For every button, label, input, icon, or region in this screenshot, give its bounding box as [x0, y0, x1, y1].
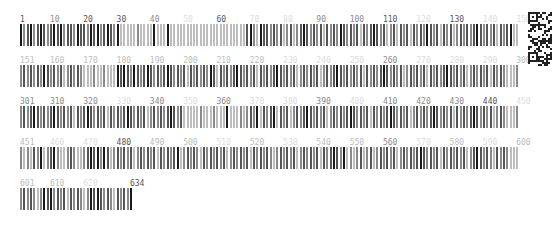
position-label: 130: [450, 15, 464, 24]
residue-bar: [63, 188, 65, 210]
residue-bar: [436, 147, 438, 169]
position-label: 120: [416, 15, 430, 24]
residue-bar: [440, 24, 442, 46]
residue-bar: [466, 106, 468, 128]
residue-bar: [333, 65, 335, 87]
residue-bar: [250, 24, 252, 46]
position-label: 70: [250, 15, 260, 24]
residue-bar: [473, 106, 475, 128]
residue-bar: [273, 147, 275, 169]
residue-bar: [446, 106, 448, 128]
residue-bar: [157, 106, 159, 128]
residue-bar: [430, 24, 432, 46]
residue-bar: [50, 65, 52, 87]
residue-bar: [123, 106, 125, 128]
residue-bar: [506, 65, 508, 87]
residue-bar: [60, 24, 62, 46]
residue-bar: [373, 24, 375, 46]
residue-bar: [416, 106, 418, 128]
residue-bar: [403, 65, 405, 87]
residue-bar: [236, 147, 238, 169]
residue-bar: [256, 65, 258, 87]
residue-bar: [107, 65, 109, 87]
residue-bar: [210, 24, 212, 46]
residue-bar: [90, 147, 92, 169]
residue-bar: [333, 24, 335, 46]
residue-bar: [27, 106, 29, 128]
residue-bar: [157, 147, 159, 169]
residue-bar: [310, 147, 312, 169]
residue-bar: [280, 106, 282, 128]
residue-bar: [243, 65, 245, 87]
residue-bar: [510, 65, 512, 87]
residue-bar: [493, 24, 495, 46]
residue-bar: [276, 24, 278, 46]
residue-bar: [286, 106, 288, 128]
residue-bar: [466, 65, 468, 87]
residue-bar: [450, 65, 452, 87]
residue-bar: [100, 24, 102, 46]
residue-bar: [370, 147, 372, 169]
residue-bar: [416, 65, 418, 87]
residue-bar: [433, 147, 435, 169]
residue-bar: [463, 24, 465, 46]
residue-bar: [33, 147, 35, 169]
position-label: 620: [83, 179, 97, 188]
residue-bar: [276, 106, 278, 128]
residue-bar: [480, 24, 482, 46]
residue-bar: [127, 147, 129, 169]
residue-bar: [336, 65, 338, 87]
residue-bar: [506, 106, 508, 128]
residue-bar: [403, 24, 405, 46]
position-label: 200: [183, 56, 197, 65]
position-label: 490: [150, 138, 164, 147]
position-label: 230: [283, 56, 297, 65]
residue-bar: [426, 106, 428, 128]
residue-bar: [87, 24, 89, 46]
position-label: 80: [283, 15, 293, 24]
residue-bar: [216, 147, 218, 169]
residue-bar: [506, 24, 508, 46]
residue-bar: [206, 65, 208, 87]
residue-bar: [386, 147, 388, 169]
residue-bar: [330, 147, 332, 169]
position-label: 450: [516, 97, 530, 106]
residue-bar: [236, 24, 238, 46]
residue-bar: [113, 188, 115, 210]
residue-bar: [93, 188, 95, 210]
residue-bar: [170, 147, 172, 169]
residue-bar: [363, 147, 365, 169]
residue-bar: [97, 24, 99, 46]
residue-bar: [183, 106, 185, 128]
residue-bar: [223, 24, 225, 46]
residue-bar: [120, 147, 122, 169]
position-label: 250: [350, 56, 364, 65]
residue-bar: [373, 65, 375, 87]
residue-bar: [143, 147, 145, 169]
residue-bar: [476, 65, 478, 87]
residue-bar: [243, 24, 245, 46]
residue-bar: [83, 65, 85, 87]
residue-bar: [450, 106, 452, 128]
residue-bar: [473, 65, 475, 87]
position-label: 30: [117, 15, 127, 24]
position-label: 460: [50, 138, 64, 147]
residue-bar: [57, 188, 59, 210]
residue-bar: [266, 106, 268, 128]
residue-bar: [110, 24, 112, 46]
residue-bar: [266, 65, 268, 87]
residue-bar: [230, 147, 232, 169]
residue-bar: [493, 106, 495, 128]
residue-bar: [383, 65, 385, 87]
residue-bar: [406, 147, 408, 169]
residue-bar: [250, 147, 252, 169]
residue-bar: [210, 147, 212, 169]
residue-bar: [203, 106, 205, 128]
residue-bar: [170, 65, 172, 87]
residue-bar: [87, 147, 89, 169]
residue-bar: [30, 147, 32, 169]
residue-bar: [380, 147, 382, 169]
barcode-row: 1511601701801902002102202302402502602702…: [0, 56, 554, 97]
residue-bar: [496, 106, 498, 128]
residue-bar: [260, 65, 262, 87]
